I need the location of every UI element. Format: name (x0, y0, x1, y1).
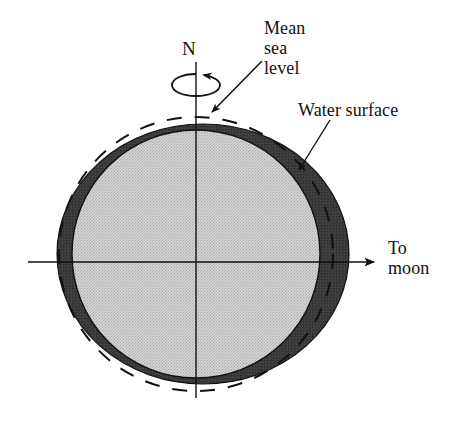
water-surface-leader-line (299, 120, 330, 170)
water-surface-label: Water surface (298, 100, 398, 120)
to-moon-label: Tomoon (388, 238, 429, 278)
north-pole-label: N (182, 38, 196, 59)
mean-sea-level-line-2: sea (264, 38, 287, 58)
to-moon-line-2: moon (388, 258, 429, 278)
mean-sea-level-line-3: level (264, 58, 299, 78)
tidal-bulge-diagram: N Meansealevel Water surface Tomoon (0, 0, 463, 424)
mean-sea-level-label: Meansealevel (264, 18, 305, 78)
diagram-canvas (0, 0, 463, 424)
to-moon-line-1: To (388, 238, 407, 258)
mean-sea-level-line-1: Mean (264, 18, 305, 38)
